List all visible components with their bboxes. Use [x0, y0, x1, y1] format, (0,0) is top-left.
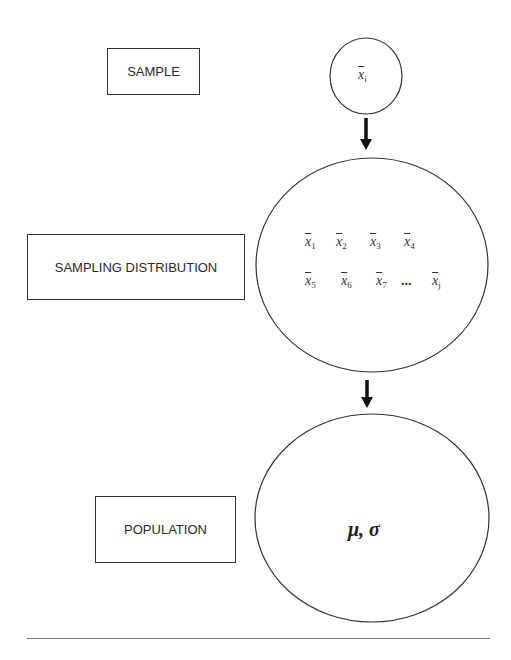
sampling-distribution-label: SAMPLING DISTRIBUTION — [55, 260, 218, 275]
sample-label-box: SAMPLE — [107, 48, 200, 95]
sample-mean-x6: x6 — [341, 274, 352, 290]
population-label-box: POPULATION — [95, 496, 236, 563]
sample-mean-x7: x7 — [376, 274, 387, 290]
sample-mean-x2: x2 — [336, 235, 347, 251]
diagram-canvas — [0, 0, 511, 660]
ellipsis: ... — [401, 274, 412, 288]
sample-mean-x4: x4 — [404, 235, 415, 251]
sample-mean-x1: x1 — [305, 235, 316, 251]
arrow-down-icon — [360, 118, 372, 150]
sample-mean-symbol: xi — [358, 68, 367, 84]
population-label: POPULATION — [124, 522, 207, 537]
arrow-down-icon — [361, 380, 373, 408]
horizontal-rule — [27, 638, 490, 639]
sampling-distribution-circle — [256, 158, 488, 372]
sample-mean-x3: x3 — [370, 235, 381, 251]
population-parameters: μ, σ — [348, 518, 380, 541]
sample-mean-xj: xj — [432, 274, 441, 290]
sample-mean-x5: x5 — [305, 274, 316, 290]
sampling-distribution-label-box: SAMPLING DISTRIBUTION — [27, 234, 245, 300]
sample-label: SAMPLE — [127, 64, 180, 79]
